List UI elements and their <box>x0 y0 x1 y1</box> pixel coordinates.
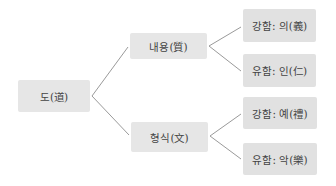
root-node-dao: 도(道) <box>18 80 90 112</box>
connector-form-leaf3 <box>210 114 241 136</box>
branch-node-label: 형식(文) <box>150 130 188 145</box>
connector-content-leaf2 <box>209 46 241 71</box>
leaf-node-label: 강함: 의(義) <box>252 18 307 33</box>
root-node-label: 도(道) <box>40 89 68 104</box>
leaf-node-benevolence: 유함: 인(仁) <box>243 54 316 87</box>
connector-root-form <box>92 96 129 135</box>
branch-node-content: 내용(質) <box>130 33 207 59</box>
leaf-node-music: 유함: 악(樂) <box>243 143 317 175</box>
connector-root-content <box>92 47 128 96</box>
connector-form-leaf4 <box>210 136 241 159</box>
branch-node-label: 내용(質) <box>149 39 187 54</box>
leaf-node-righteousness: 강함: 의(義) <box>243 9 316 42</box>
connector-content-leaf1 <box>209 27 241 46</box>
leaf-node-label: 유함: 악(樂) <box>252 152 307 167</box>
leaf-node-label: 강함: 예(禮) <box>252 106 307 121</box>
branch-node-form: 형식(文) <box>131 122 208 152</box>
leaf-node-ritual: 강함: 예(禮) <box>243 97 317 129</box>
leaf-node-label: 유함: 인(仁) <box>252 63 307 78</box>
